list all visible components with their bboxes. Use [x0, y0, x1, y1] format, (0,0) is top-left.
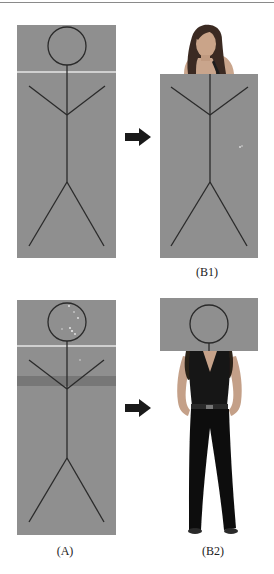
panel-b2 — [160, 298, 258, 534]
label-b1: (B1) — [196, 265, 218, 279]
right-arrow-icon — [125, 128, 151, 146]
right-arrow-icon — [125, 399, 151, 417]
panel-a-bottom — [17, 300, 116, 535]
woman-head-image — [184, 25, 234, 74]
panel-b1 — [160, 25, 258, 258]
figure-canvas: (B1) — [0, 0, 274, 574]
label-b2: (B2) — [202, 544, 224, 558]
label-a: (A) — [57, 544, 74, 558]
panel-a-top — [17, 25, 116, 258]
woman-body-image — [177, 351, 242, 534]
